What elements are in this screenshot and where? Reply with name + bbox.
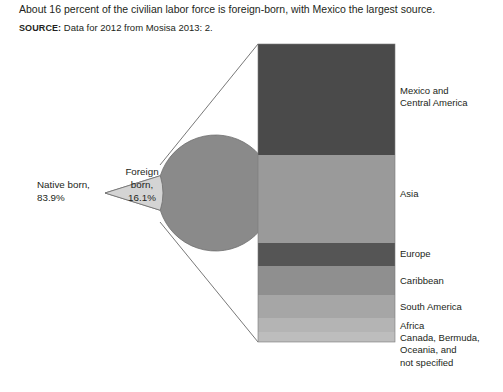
bar-label-caribbean: Caribbean <box>400 275 444 287</box>
stacked-bar <box>258 44 395 342</box>
bar-label-europe: Europe <box>400 248 431 260</box>
bar-segment-mexico-central-america <box>258 44 395 155</box>
bar-segment-africa <box>258 318 395 332</box>
bar-segment-south-america <box>258 295 395 318</box>
bar-segment-asia <box>258 155 395 243</box>
bar-label-africa: Africa <box>400 320 424 332</box>
pie-label-foreign-born: Foreign born, 16.1% <box>117 166 167 204</box>
bar-label-asia: Asia <box>400 188 418 200</box>
pie-label-native-born: Native born, 83.9% <box>37 179 90 205</box>
bar-segment-other <box>258 332 395 342</box>
bar-label-other: Canada, Bermuda, Oceania, and not specif… <box>400 332 480 369</box>
bar-segment-europe <box>258 243 395 266</box>
figure-page: About 16 percent of the civilian labor f… <box>0 0 503 392</box>
bar-segment-caribbean <box>258 266 395 295</box>
bar-label-south-america: South America <box>400 301 462 313</box>
bar-label-mexico-central-america: Mexico and Central America <box>400 85 468 110</box>
